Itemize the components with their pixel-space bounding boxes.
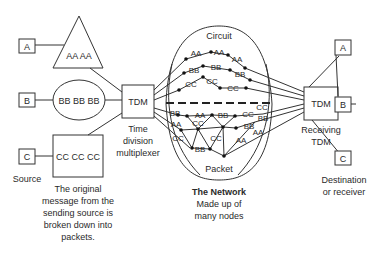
destination-a-label: A: [340, 43, 346, 53]
circuit-label: Circuit: [206, 31, 232, 41]
svg-text:CC: CC: [192, 119, 204, 128]
destination-b: B: [335, 97, 351, 112]
svg-text:CC: CC: [256, 103, 268, 112]
svg-text:CC: CC: [172, 134, 184, 143]
receiving-tdm-label: TDM: [311, 99, 331, 109]
svg-text:BB: BB: [189, 66, 200, 75]
message-b-ellipse: BB BB BB: [53, 80, 105, 120]
svg-text:BB: BB: [218, 111, 229, 120]
packet-label: Packet: [205, 164, 233, 174]
destination-caption-2: or receiver: [323, 187, 366, 197]
svg-text:CC: CC: [185, 80, 197, 89]
svg-text:AA: AA: [171, 120, 182, 129]
svg-text:AA: AA: [236, 136, 247, 145]
sending-tdm: TDM: [122, 85, 154, 118]
svg-text:BB: BB: [235, 70, 246, 79]
source-b-label: B: [24, 96, 30, 106]
network-subtitle-1: Made up of: [196, 199, 242, 209]
tdm-network-diagram: A AA AA B BB BB BB C CC CC CC Source The…: [0, 0, 382, 253]
svg-text:CC: CC: [210, 134, 222, 143]
source-caption: Source: [13, 174, 42, 184]
message-note-line-3: sending source is: [43, 208, 114, 218]
packet-mesh: BB AA BB CC AA CC BB CC BB CC AA CC BB A…: [154, 103, 304, 158]
sending-tdm-caption-3: multiplexer: [116, 148, 160, 158]
network-subtitle-2: many nodes: [194, 211, 244, 221]
source-a-label: A: [24, 42, 30, 52]
svg-text:BB: BB: [170, 109, 181, 118]
source-c-label: C: [24, 152, 31, 162]
svg-text:AA: AA: [191, 49, 202, 58]
sending-tdm-caption-2: division: [123, 136, 153, 146]
svg-text:BB: BB: [258, 114, 269, 123]
source-a: A: [19, 39, 35, 53]
svg-text:CC: CC: [206, 77, 218, 86]
message-c-text: CC CC CC: [56, 152, 100, 162]
source-c: C: [19, 149, 35, 164]
destination-caption-1: Destination: [321, 175, 366, 185]
source-b: B: [19, 93, 35, 107]
svg-text:AA: AA: [253, 128, 264, 137]
destination-c-label: C: [340, 154, 347, 164]
message-note-line-2: message from the: [42, 196, 114, 206]
receiving-tdm: TDM: [304, 87, 338, 120]
message-note-line-5: packets.: [61, 232, 95, 242]
message-a-triangle: AA AA: [53, 16, 103, 68]
network-title: The Network: [192, 187, 247, 197]
message-b-text: BB BB BB: [58, 96, 99, 106]
message-c-rect: CC CC CC: [53, 135, 103, 177]
destination-a: A: [335, 40, 351, 55]
sending-tdm-caption-1: Time: [128, 124, 148, 134]
svg-text:BB: BB: [211, 63, 222, 72]
svg-text:AA: AA: [232, 55, 243, 64]
svg-text:AA: AA: [214, 48, 225, 57]
svg-text:CC: CC: [227, 84, 239, 93]
destination-b-label: B: [340, 100, 346, 110]
sending-tdm-label: TDM: [128, 97, 148, 107]
svg-text:BB: BB: [195, 145, 206, 154]
svg-text:CC: CC: [242, 110, 254, 119]
destination-c: C: [335, 151, 351, 165]
message-a-text: AA AA: [66, 51, 92, 61]
message-note-line-4: broken down into: [44, 220, 113, 230]
receiving-tdm-caption-1: Receiving: [301, 125, 341, 135]
message-note-line-1: The original: [54, 184, 101, 194]
